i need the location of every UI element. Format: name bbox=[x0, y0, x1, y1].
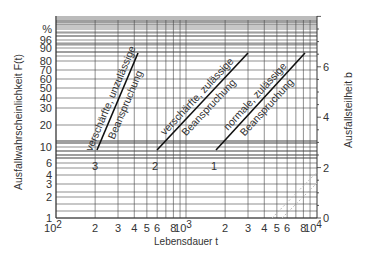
y-tick-label: 2 bbox=[46, 191, 52, 203]
x-tick-label: 6 bbox=[154, 222, 160, 234]
y-tick-label: 4 bbox=[46, 169, 52, 181]
y2-tick-label: 2 bbox=[323, 162, 329, 174]
y-tick-label: 20 bbox=[40, 119, 52, 131]
x-tick-label: 5 bbox=[274, 222, 280, 234]
x-tick-label: 4 bbox=[131, 222, 137, 234]
x-tick-label: 4 bbox=[261, 222, 267, 234]
y2-axis-label: Ausfallsteilheit b bbox=[342, 72, 354, 148]
x-axis-label: Lebensdauer t bbox=[154, 236, 218, 247]
y2-tick-label: 0 bbox=[323, 212, 329, 224]
y-tick-label: 6 bbox=[46, 157, 52, 169]
top-band bbox=[56, 16, 317, 20]
y2-tick-label: 6 bbox=[323, 61, 329, 73]
x-axis-ticks: 102234568103234568104 bbox=[44, 219, 322, 234]
y-axis-ticks: 1234610203040506070809096% bbox=[40, 23, 52, 224]
y-axis-label: Ausfallwahrscheinlichkeit F(t) bbox=[12, 54, 24, 190]
y-tick-label: 80 bbox=[40, 55, 52, 67]
x-tick-label: 102 bbox=[44, 219, 62, 234]
y-tick-label: % bbox=[42, 23, 52, 35]
x-tick-label: 103 bbox=[174, 219, 192, 234]
x-tick-label: 3 bbox=[115, 222, 121, 234]
x-tick-label: 6 bbox=[284, 222, 290, 234]
y-tick-label: 10 bbox=[40, 141, 52, 153]
x-tick-label: 2 bbox=[222, 222, 228, 234]
series-number-1: 1 bbox=[211, 160, 217, 172]
x-tick-label: 2 bbox=[92, 222, 98, 234]
weibull-chart: verschärfte, unzulässigeBeanspruchung3ve… bbox=[0, 0, 366, 258]
y-tick-label: 96 bbox=[40, 34, 52, 46]
y2-tick-label: 4 bbox=[323, 111, 329, 123]
series-number-2: 2 bbox=[152, 160, 158, 172]
series-number-3: 3 bbox=[92, 160, 98, 172]
x-tick-label: 3 bbox=[245, 222, 251, 234]
x-tick-label: 5 bbox=[144, 222, 150, 234]
series-line-2 bbox=[157, 53, 248, 150]
x-tick-label: 104 bbox=[304, 219, 322, 234]
y2-axis-ticks: 0246 bbox=[317, 16, 329, 224]
